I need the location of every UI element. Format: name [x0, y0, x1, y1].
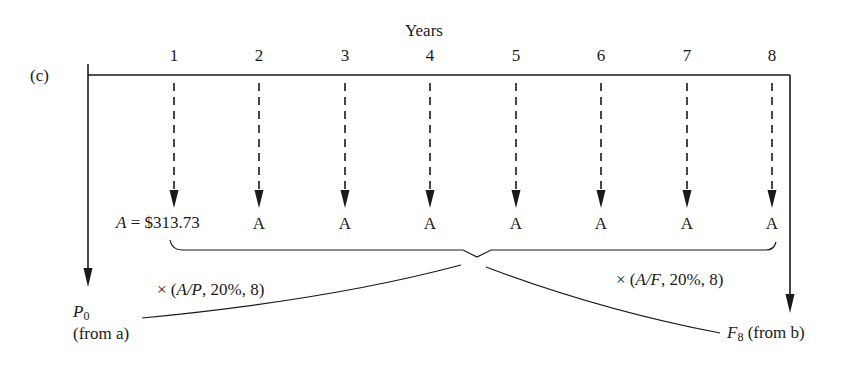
annuity-label: A	[766, 214, 778, 234]
axis-title: Years	[405, 22, 443, 39]
annuity-arrows	[170, 83, 777, 208]
year-label: 7	[683, 46, 692, 66]
year-label: 5	[512, 46, 521, 66]
future-value-label: F8 (from b)	[727, 324, 805, 341]
annuity-arrow-year-6	[597, 83, 606, 208]
annuity-label: A	[595, 214, 607, 234]
panel-label: (c)	[30, 67, 49, 84]
annuity-value-label: A = $313.73	[116, 214, 200, 231]
annuity-arrow-year-3	[341, 83, 350, 208]
annuity-label: A	[681, 214, 693, 234]
year-label: 3	[341, 46, 350, 66]
annuity-arrow-year-8	[768, 83, 777, 208]
year-label: 6	[597, 46, 606, 66]
annuity-label: A	[510, 214, 522, 234]
year-label: 4	[426, 46, 435, 66]
present-value-arrow	[84, 64, 93, 287]
annuity-variable: A	[116, 213, 126, 232]
present-value-label: P0	[73, 303, 89, 320]
grouping-brace	[170, 240, 776, 257]
annuity-label: A	[253, 214, 265, 234]
annuity-arrow-year-2	[255, 83, 264, 208]
annuity-arrow-year-1	[170, 83, 179, 208]
year-label: 2	[255, 46, 264, 66]
annuity-arrow-year-7	[683, 83, 692, 208]
annuity-arrow-year-5	[512, 83, 521, 208]
annuity-arrow-year-4	[426, 83, 435, 208]
present-value-note: (from a)	[73, 325, 129, 342]
year-label: 1	[170, 46, 179, 66]
annuity-label: A	[424, 214, 436, 234]
left-factor-label: × (A/P, 20%, 8)	[157, 281, 264, 298]
year-label: 8	[768, 46, 777, 66]
annuity-amount: = $313.73	[126, 213, 199, 232]
right-factor-label: × (A/F, 20%, 8)	[616, 271, 723, 288]
annuity-label: A	[339, 214, 351, 234]
future-value-arrow	[786, 75, 795, 313]
